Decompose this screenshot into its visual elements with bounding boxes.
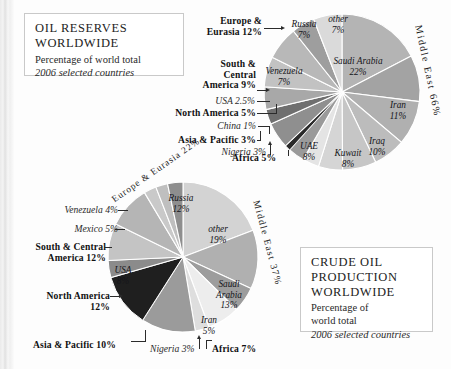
slice-label-other-name: other (208, 224, 228, 234)
slice-label-saudi-arabia-value: 22% (349, 67, 366, 77)
slice-label-iran-name: Iran (201, 315, 217, 325)
callout-nigeria-3: Nigeria 3% (150, 344, 195, 355)
callout-south-central-america-12: South & Central America 12% (12, 242, 106, 263)
callout-sca-line2: America 12% (48, 252, 106, 263)
caption-production-title-line1: CRUDE OIL (311, 255, 383, 269)
slice-label-other-value: 7% (332, 25, 344, 35)
caption-reserves-sub-line1: Percentage of world total (35, 54, 141, 65)
caption-production-sub-line2: world total (311, 315, 357, 326)
caption-box-crude-oil-production: CRUDE OIL PRODUCTION WORLDWIDE Percentag… (300, 247, 433, 332)
slice-label-uae: UAE 8% (292, 141, 326, 162)
slice-label-saudi-arabia: Saudi Arabia 13% (206, 279, 252, 311)
caption-production-title-line3: WORLDWIDE (311, 285, 395, 299)
callout-na-line2: 12% (90, 301, 110, 312)
caption-reserves-title-line1: OIL RESERVES (35, 21, 127, 35)
slice-label-usa-name: USA (114, 265, 131, 275)
leader-line-asia-pacific (257, 140, 261, 141)
leader-line-venezuela (118, 210, 128, 211)
slice-label-iran-value: 11% (390, 111, 406, 121)
book-gutter-shadow (0, 0, 14, 369)
leader-arrow-nigeria (197, 335, 201, 339)
callout-africa-7: Africa 7% (212, 344, 256, 355)
callout-europe-line1: Europe & (220, 15, 262, 26)
leader-line-asia-pacific-h (131, 341, 146, 342)
callout-china-1: China 1% (172, 121, 256, 132)
caption-production-title-line2: PRODUCTION (311, 270, 398, 284)
slice-label-iran: Iran 11% (378, 100, 418, 121)
slice-label-russia: Russia 12% (159, 193, 203, 214)
slice-label-iran-name: Iran (390, 100, 406, 110)
leader-arrow-sca (266, 88, 270, 92)
callout-africa-5: Africa 5% (232, 153, 276, 164)
slice-label-kuwait-value: 8% (342, 159, 354, 169)
slice-label-other-value: 19% (209, 235, 226, 245)
callout-sca-line1: South & (221, 58, 256, 69)
callout-asia-pacific-10: Asia & Pacific 10% (33, 340, 116, 351)
caption-box-oil-reserves: OIL RESERVES WORLDWIDE Percentage of wor… (24, 13, 184, 76)
callout-north-america-5: North America 5% (150, 108, 256, 119)
caption-reserves-sub-line2: 2006 selected countries (35, 67, 134, 78)
leader-arrow-nigeria (268, 141, 272, 145)
caption-production-sub-line3: 2006 selected countries (311, 329, 410, 340)
callout-europe-eurasia-12: Europe & Eurasia 12% (184, 16, 262, 37)
slice-label-saudi-value: 13% (220, 300, 237, 310)
leader-line-sca (104, 247, 112, 248)
slice-label-uae-value: 8% (303, 152, 315, 162)
slice-label-russia-value: 12% (172, 204, 189, 214)
caption-reserves-subtitle: Percentage of world total 2006 selected … (35, 53, 174, 79)
callout-sca-line1: South & Central (36, 241, 106, 252)
callout-usa-2p5: USA 2.5% (170, 96, 255, 107)
slice-label-uae-name: UAE (300, 141, 318, 151)
slice-label-saudi-arabia: Saudi Arabia 22% (314, 56, 402, 77)
leader-line-nigeria-v (199, 339, 200, 349)
slice-label-russia-name: Russia (292, 19, 317, 29)
callout-venezuela-4: Venezuela 4% (38, 205, 118, 216)
leader-arrow-europe (281, 26, 285, 30)
slice-label-other-name: other (328, 14, 348, 24)
callout-sca-line3: America 9% (203, 79, 256, 90)
leader-line-north-america-v (276, 104, 277, 114)
leader-line-africa-v (206, 340, 207, 349)
slice-label-kuwait: Kuwait 8% (327, 148, 369, 169)
leader-line-north-america (257, 113, 276, 114)
callout-south-central-america-9: South & Central America 9% (180, 59, 256, 91)
leader-line-asia-pacific-v (260, 131, 261, 140)
leader-line-europe (264, 28, 282, 29)
leader-line-africa-v (288, 150, 289, 156)
leader-line-africa-h (206, 340, 212, 341)
slice-label-venezuela-name: Venezuela (265, 66, 302, 76)
caption-production-title: CRUDE OIL PRODUCTION WORLDWIDE (311, 255, 423, 299)
slice-label-saudi-line2: Arabia (216, 290, 242, 300)
slice-label-iraq-value: 10% (368, 147, 385, 157)
slice-label-saudi-arabia-name: Saudi Arabia (333, 56, 382, 66)
callout-north-america-12: North America 12% (16, 291, 110, 312)
slice-label-other: other 7% (320, 14, 356, 35)
callout-mexico-5: Mexico 5% (42, 224, 118, 235)
slice-label-russia-value: 7% (298, 30, 310, 40)
slice-label-kuwait-name: Kuwait (335, 148, 362, 158)
caption-reserves-title: OIL RESERVES WORLDWIDE (35, 21, 174, 51)
callout-sca-line2: Central (224, 69, 257, 80)
callout-europe-line2: Eurasia 12% (207, 26, 262, 37)
leader-line-usa (257, 101, 270, 102)
slice-label-iraq-name: Iraq (369, 136, 385, 146)
leader-line-mexico (115, 229, 125, 230)
caption-production-sub-line1: Percentage of (311, 302, 368, 313)
caption-reserves-title-line2: WORLDWIDE (35, 36, 119, 50)
slice-label-russia-name: Russia (169, 193, 194, 203)
slice-label-russia: Russia 7% (283, 19, 325, 40)
slice-label-venezuela-value: 7% (278, 77, 290, 87)
slice-label-iran-value: 5% (203, 326, 215, 336)
slice-label-usa-value: 8% (117, 276, 129, 286)
caption-production-subtitle: Percentage of world total 2006 selected … (311, 301, 423, 340)
slice-label-iran: Iran 5% (192, 315, 226, 336)
callout-na-line1: North America (47, 290, 111, 301)
slice-label-venezuela: Venezuela 7% (254, 66, 314, 87)
slice-label-other: other 19% (196, 224, 240, 245)
leader-line-china-v (269, 126, 270, 134)
leader-arrow-north-america (119, 294, 123, 298)
slice-label-usa: USA 8% (106, 265, 140, 286)
slice-label-saudi-line1: Saudi (218, 279, 239, 289)
page-canvas: Saudi Arabia 22% Iran 11% Iraq 10% Kuwai… (0, 0, 451, 369)
